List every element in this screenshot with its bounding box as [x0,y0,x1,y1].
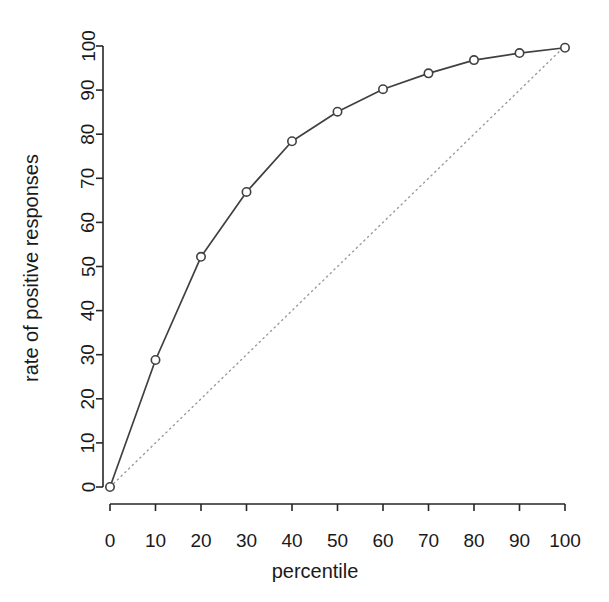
x-axis-tick-label: 90 [509,530,530,551]
x-axis-tick-label: 60 [372,530,393,551]
x-axis-title: percentile [272,560,359,582]
y-axis-tick-label: 80 [78,124,99,145]
chart-container: 0102030405060708090100 01020304050607080… [0,0,609,602]
data-point-marker [515,49,523,57]
data-point-marker [470,56,478,64]
data-point-marker [424,69,432,77]
y-axis-tick-label: 70 [78,168,99,189]
x-axis-tick-label: 80 [463,530,484,551]
x-axis-tick-label: 10 [145,530,166,551]
y-axis-tick-label: 50 [78,256,99,277]
y-axis-tick-label: 60 [78,212,99,233]
y-axis-tick-label: 10 [78,432,99,453]
x-axis-tick-label: 0 [105,530,116,551]
y-axis-title: rate of positive responses [20,154,42,382]
data-point-marker [288,137,296,145]
y-axis-tick-label: 90 [78,80,99,101]
y-axis-tick-label: 0 [78,482,99,493]
gains-chart-plot: 0102030405060708090100 01020304050607080… [0,0,609,602]
data-point-marker [333,108,341,116]
y-axis-tick-label: 20 [78,388,99,409]
x-axis-tick-label: 40 [281,530,302,551]
y-axis-tick-label: 40 [78,300,99,321]
x-axis-tick-label: 30 [236,530,257,551]
data-point-marker [197,253,205,261]
data-point-marker [242,188,250,196]
data-point-marker [151,356,159,364]
x-axis-tick-label: 100 [549,530,581,551]
data-point-marker [379,85,387,93]
x-axis-tick-label: 70 [418,530,439,551]
x-axis-tick-label: 20 [190,530,211,551]
data-point-marker [106,483,114,491]
y-axis-tick-label: 100 [78,30,99,62]
y-axis-tick-label: 30 [78,344,99,365]
data-point-marker [561,44,569,52]
x-axis-tick-label: 50 [327,530,348,551]
